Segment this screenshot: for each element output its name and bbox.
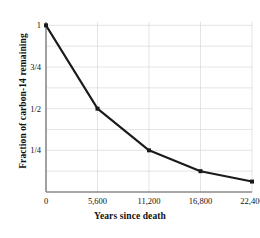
data-point-marker (44, 23, 48, 27)
y-tick-label: 1/2 (30, 104, 41, 114)
x-tick-label: 16,800 (189, 196, 212, 206)
chart-figure: Fraction of carbon-14 remaining Years si… (0, 0, 260, 238)
y-tick-label: 1 (37, 20, 41, 30)
carbon-14-decay-plot: 1/41/23/41 05,60011,20016,80022,400 (0, 0, 260, 238)
x-tick-label: 0 (44, 196, 48, 206)
x-tick-label: 11,200 (137, 196, 160, 206)
y-tick-label: 1/4 (30, 145, 42, 155)
x-tick-labels: 05,60011,20016,80022,400 (44, 196, 260, 206)
x-tick-label: 5,600 (88, 196, 107, 206)
x-tick-label: 22,400 (240, 196, 260, 206)
data-point-marker (199, 169, 203, 173)
data-point-marker (250, 180, 254, 184)
data-point-marker (96, 107, 100, 111)
data-point-marker (147, 148, 151, 152)
vertical-gridlines (98, 22, 253, 192)
y-tick-label: 3/4 (30, 62, 42, 72)
y-tick-labels: 1/41/23/41 (30, 20, 42, 155)
